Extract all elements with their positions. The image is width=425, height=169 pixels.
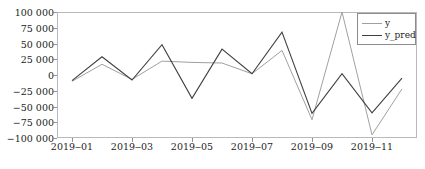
y-tick-label: 75 000 xyxy=(21,22,54,33)
legend-item-y: y xyxy=(362,17,411,29)
legend-swatch-y-pred xyxy=(362,35,382,36)
x-tick-mark xyxy=(192,138,193,142)
y-tick-label: 100 000 xyxy=(15,7,54,18)
x-tick-mark xyxy=(372,138,373,142)
y-tick-label: −50 000 xyxy=(13,101,54,112)
x-tick-mark xyxy=(312,138,313,142)
legend-label-y-pred: y_pred xyxy=(385,30,416,40)
x-tick-label: 2019‒07 xyxy=(231,141,273,152)
legend-swatch-y xyxy=(362,23,382,24)
x-tick-label: 2019‒03 xyxy=(111,141,153,152)
x-tick-mark xyxy=(252,138,253,142)
legend-item-y-pred: y_pred xyxy=(362,29,411,41)
line-chart: 100 00075 00050 00025 0000−25 000−50 000… xyxy=(0,0,425,169)
x-tick-label: 2019‒01 xyxy=(51,141,93,152)
y-tick-label: −25 000 xyxy=(13,85,54,96)
y-tick-label: 50 000 xyxy=(21,38,54,49)
series-line-y xyxy=(72,12,402,135)
x-tick-label: 2019‒05 xyxy=(171,141,213,152)
series-line-y-pred xyxy=(72,32,402,113)
y-tick-label: 25 000 xyxy=(21,54,54,65)
x-tick-mark xyxy=(132,138,133,142)
y-tick-mark xyxy=(53,138,57,139)
x-tick-mark xyxy=(72,138,73,142)
legend-label-y: y xyxy=(385,18,390,28)
y-tick-label: −100 000 xyxy=(7,133,54,144)
y-axis-tick-labels: 100 00075 00050 00025 0000−25 000−50 000… xyxy=(0,0,54,169)
x-tick-label: 2019‒09 xyxy=(291,141,333,152)
chart-legend: y y_pred xyxy=(357,13,416,45)
y-tick-label: −75 000 xyxy=(13,117,54,128)
x-tick-label: 2019‒11 xyxy=(351,141,393,152)
